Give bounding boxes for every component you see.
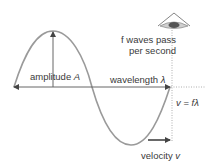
amplitude-symbol: A [74,71,80,82]
velocity-symbol: v [175,150,180,161]
amplitude-label: amplitude A [30,71,80,82]
equation-label: v = fλ [176,97,199,108]
frequency-line-1: f waves pass [120,34,176,45]
velocity-label: velocity v [141,150,180,161]
frequency-line-2: per second [120,45,176,56]
equation-eq: = [181,97,192,108]
amplitude-text: amplitude [30,71,71,82]
wave-diagram [0,0,206,164]
wavelength-text: wavelength [110,74,158,85]
frequency-label: f waves pass per second [120,34,176,56]
wavelength-symbol: λ [161,74,166,85]
velocity-text: velocity [141,150,173,161]
wavelength-label: wavelength λ [110,74,165,85]
eye-icon [158,13,190,29]
equation-rhs: fλ [192,97,199,108]
